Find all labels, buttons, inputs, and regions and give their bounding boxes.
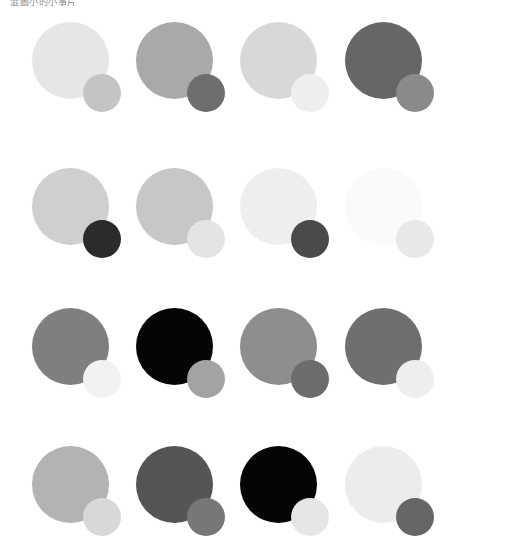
circle-pair — [345, 22, 449, 142]
small-circle — [291, 220, 329, 258]
circle-pair — [136, 308, 240, 428]
circle-pair — [32, 22, 136, 142]
circle-pair — [32, 446, 136, 560]
circle-pair — [240, 308, 344, 428]
circle-pair — [32, 168, 136, 288]
small-circle — [396, 498, 434, 536]
circle-pair — [240, 168, 344, 288]
small-circle — [83, 360, 121, 398]
circle-grid — [0, 0, 520, 560]
small-circle — [291, 74, 329, 112]
circle-pair — [240, 22, 344, 142]
small-circle — [187, 498, 225, 536]
small-circle — [291, 360, 329, 398]
circle-pair — [240, 446, 344, 560]
circle-pair — [345, 168, 449, 288]
small-circle — [396, 74, 434, 112]
small-circle — [187, 360, 225, 398]
small-circle — [83, 74, 121, 112]
small-circle — [187, 220, 225, 258]
small-circle — [83, 498, 121, 536]
small-circle — [83, 220, 121, 258]
circle-pair — [345, 446, 449, 560]
small-circle — [396, 220, 434, 258]
circle-pair — [32, 308, 136, 428]
circle-pair — [136, 168, 240, 288]
small-circle — [396, 360, 434, 398]
circle-pair — [345, 308, 449, 428]
circle-pair — [136, 446, 240, 560]
small-circle — [187, 74, 225, 112]
small-circle — [291, 498, 329, 536]
circle-pair — [136, 22, 240, 142]
